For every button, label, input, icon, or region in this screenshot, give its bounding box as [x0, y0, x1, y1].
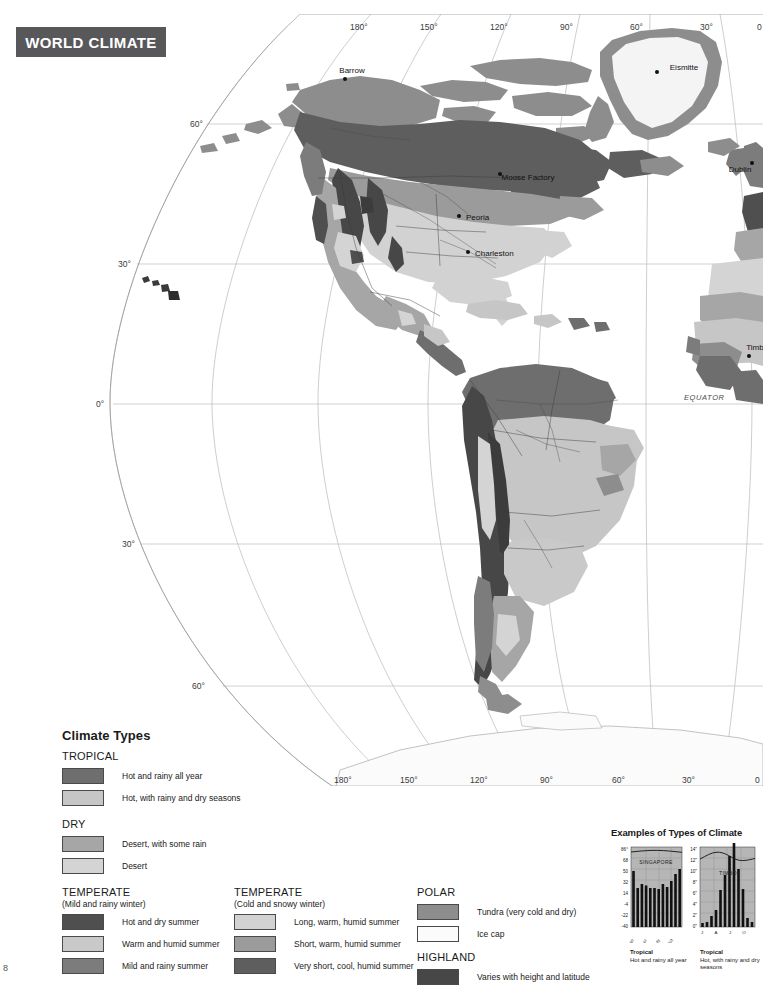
svg-text:120°: 120°: [490, 22, 508, 32]
chart-caption-desc: Hot, with rainy and dry seasons: [700, 957, 760, 971]
legend-swatch: [62, 858, 104, 874]
svg-text:Eismitte: Eismitte: [670, 63, 699, 72]
svg-text:60°: 60°: [192, 681, 205, 691]
legend-group-dry: DRY Desert, with some rain Desert: [62, 818, 282, 875]
chart-singapore[interactable]: 86° 68 50 32 14 -4 -22 -40: [610, 843, 687, 964]
legend-item[interactable]: Tundra (very cold and dry): [417, 902, 627, 921]
legend-swatch: [234, 936, 276, 952]
chart-city-name: SINGAPORE: [639, 859, 673, 865]
legend-item-label: Desert: [122, 861, 147, 871]
legend-item-label: Varies with height and latitude: [477, 972, 590, 982]
svg-text:12": 12": [690, 858, 697, 863]
svg-text:86°: 86°: [621, 847, 628, 852]
svg-text:Peoria: Peoria: [466, 213, 490, 222]
chart-left-axis-labels: 86° 68 50 32 14 -4 -22 -40: [621, 847, 628, 929]
legend-swatch: [62, 836, 104, 852]
svg-text:-4: -4: [624, 902, 629, 907]
svg-text:60°: 60°: [630, 22, 643, 32]
svg-text:150°: 150°: [400, 775, 418, 785]
legend-swatch: [62, 958, 104, 974]
chart-timbo[interactable]: 14" 12" 10" 8" 6" 4" 2" 0": [684, 843, 763, 972]
legend-swatch: [62, 914, 104, 930]
svg-text:Timb: Timb: [746, 343, 763, 352]
legend-group-title: TROPICAL: [62, 750, 282, 762]
svg-text:Moose Factory: Moose Factory: [502, 173, 555, 182]
chart-month-labels: J A J O: [701, 930, 746, 935]
svg-text:4": 4": [693, 902, 698, 907]
svg-text:68: 68: [623, 858, 629, 863]
legend-item[interactable]: Ice cap: [417, 924, 627, 943]
examples-of-climate-panel: Examples of Types of Climate 86° 68 50 3…: [610, 827, 763, 997]
legend-swatch: [417, 969, 459, 985]
legend-group-polar: POLAR Tundra (very cold and dry) Ice cap…: [417, 886, 627, 989]
svg-text:Charleston: Charleston: [475, 249, 514, 258]
legend-swatch: [62, 936, 104, 952]
legend-item-label: Short, warm, humid summer: [294, 939, 401, 949]
svg-text:July: July: [653, 937, 662, 943]
svg-text:6": 6": [693, 891, 698, 896]
legend-column-1: TROPICAL Hot and rainy all year Hot, wit…: [62, 750, 282, 878]
climate-legend: Climate Types TROPICAL Hot and rainy all…: [62, 728, 622, 752]
svg-text:Barrow: Barrow: [339, 66, 365, 75]
svg-text:90°: 90°: [540, 775, 553, 785]
chart-caption-desc: Hot and rainy all year: [630, 957, 687, 963]
legend-item-label: Long, warm, humid summer: [294, 917, 399, 927]
svg-text:30°: 30°: [122, 539, 135, 549]
legend-group-title: POLAR: [417, 886, 627, 898]
svg-text:-22: -22: [621, 913, 628, 918]
legend-item-label: Desert, with some rain: [122, 839, 207, 849]
legend-swatch: [234, 914, 276, 930]
svg-text:10": 10": [690, 869, 697, 874]
legend-item[interactable]: Hot, with rainy and dry seasons: [62, 788, 282, 807]
svg-text:14: 14: [623, 891, 629, 896]
legend-item-label: Hot and rainy all year: [122, 771, 202, 781]
svg-text:60°: 60°: [612, 775, 625, 785]
svg-text:0": 0": [693, 924, 698, 929]
svg-text:180°: 180°: [350, 22, 368, 32]
chart-city-name: TIMBO: [719, 870, 737, 876]
svg-text:50: 50: [623, 869, 629, 874]
chart-caption: Tropical Hot, with rainy and dry seasons: [700, 949, 763, 972]
svg-text:J: J: [729, 930, 731, 935]
legend-group-title: HIGHLAND: [417, 951, 627, 963]
page-number: 8: [3, 963, 8, 973]
legend-swatch: [417, 926, 459, 942]
legend-item[interactable]: Varies with height and latitude: [417, 967, 627, 986]
svg-text:Oct: Oct: [666, 937, 674, 943]
legend-item-label: Very short, cool, humid summer: [294, 961, 414, 971]
svg-text:0: 0: [755, 775, 760, 785]
svg-text:30°: 30°: [118, 259, 131, 269]
svg-text:30°: 30°: [700, 22, 713, 32]
legend-swatch: [234, 958, 276, 974]
examples-panel-title: Examples of Types of Climate: [611, 827, 763, 838]
chart-caption: Tropical Hot and rainy all year: [630, 949, 687, 964]
legend-item-label: Ice cap: [477, 929, 504, 939]
legend-item-label: Tundra (very cold and dry): [477, 907, 576, 917]
svg-text:14": 14": [690, 847, 697, 852]
svg-text:0°: 0°: [96, 399, 104, 409]
legend-swatch: [62, 790, 104, 806]
legend-heading: Climate Types: [62, 728, 622, 743]
world-climate-map[interactable]: 180° 150° 120° 90° 60° 30° 0 180° 150° 1…: [0, 0, 763, 800]
chart-right-axis-labels: 14" 12" 10" 8" 6" 4" 2" 0": [690, 847, 697, 929]
svg-text:Apr: Apr: [640, 938, 648, 943]
legend-swatch: [417, 904, 459, 920]
svg-text:-40: -40: [621, 924, 628, 929]
svg-text:8": 8": [693, 880, 698, 885]
legend-item[interactable]: Hot and rainy all year: [62, 766, 282, 785]
legend-item-label: Hot, with rainy and dry seasons: [122, 793, 241, 803]
svg-text:180°: 180°: [334, 775, 352, 785]
chart-caption-type: Tropical: [630, 949, 653, 955]
legend-group-title: DRY: [62, 818, 282, 830]
legend-group-tropical: TROPICAL Hot and rainy all year Hot, wit…: [62, 750, 282, 807]
chart-caption-type: Tropical: [700, 949, 723, 955]
svg-text:O: O: [742, 930, 746, 935]
svg-text:150°: 150°: [420, 22, 438, 32]
svg-text:A: A: [715, 930, 718, 935]
legend-item[interactable]: Desert, with some rain: [62, 834, 282, 853]
svg-text:2": 2": [693, 913, 698, 918]
legend-item[interactable]: Desert: [62, 856, 282, 875]
chart-plot-area: [700, 847, 755, 927]
svg-text:Dublin: Dublin: [729, 165, 752, 174]
svg-text:32: 32: [623, 880, 629, 885]
